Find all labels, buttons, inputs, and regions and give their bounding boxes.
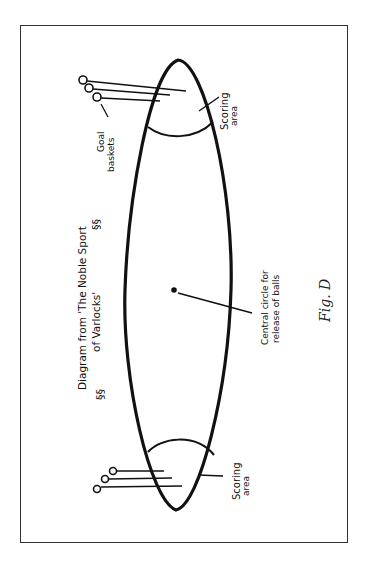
central-circle-pointer — [178, 293, 252, 313]
figure-caption: Fig. D — [317, 279, 333, 323]
scoring-area-top-arc — [148, 122, 213, 136]
svg-text:release of balls: release of balls — [271, 275, 281, 343]
svg-text:area: area — [229, 106, 239, 126]
svg-text:of Varlocks': of Varlocks' — [90, 292, 102, 352]
goal-baskets-bottom — [94, 468, 183, 493]
label-goal-baskets: Goal baskets — [96, 132, 116, 173]
label-central-circle: Central circle for release of balls — [260, 270, 281, 345]
central-circle — [171, 287, 177, 293]
pitch-outline — [125, 60, 231, 510]
svg-text:Central circle for: Central circle for — [260, 270, 270, 345]
label-scoring-area-top: Scoring area — [219, 92, 239, 130]
svg-text:Goal: Goal — [96, 132, 106, 153]
goal-baskets-top — [79, 76, 186, 117]
scoring-area-bottom-pointer — [198, 475, 223, 476]
svg-text:baskets: baskets — [106, 137, 116, 172]
pitch-diagram: Scoring area Goal baskets Diagram from '… — [0, 0, 372, 579]
svg-text:Fig. D: Fig. D — [317, 279, 333, 323]
title-text: Diagram from 'The Noble Sport of Varlock… — [76, 219, 107, 400]
svg-text:Diagram from 'The Noble Sport: Diagram from 'The Noble Sport — [76, 226, 88, 390]
svg-text:area: area — [241, 476, 251, 496]
svg-text:§§: §§ — [90, 219, 103, 230]
svg-text:§§: §§ — [94, 389, 107, 400]
label-scoring-area-bottom: Scoring area — [231, 462, 251, 500]
scoring-area-bottom-arc — [148, 440, 214, 455]
